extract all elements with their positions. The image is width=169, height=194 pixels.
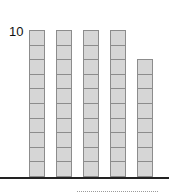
rod-4: [110, 30, 126, 177]
unit-cube: [30, 119, 44, 134]
unit-cube: [138, 104, 152, 119]
unit-cube: [111, 75, 125, 90]
unit-cube: [57, 162, 71, 176]
unit-cube: [30, 89, 44, 104]
unit-cube: [30, 60, 44, 75]
unit-cube: [111, 162, 125, 176]
unit-cube: [138, 148, 152, 163]
unit-cube: [84, 31, 98, 46]
unit-cube: [111, 148, 125, 163]
unit-cube: [57, 104, 71, 119]
unit-cube: [30, 31, 44, 46]
rod-3: [83, 30, 99, 177]
unit-cube: [84, 148, 98, 163]
unit-cube: [111, 89, 125, 104]
unit-cube: [84, 75, 98, 90]
unit-cube: [84, 162, 98, 176]
unit-cube: [84, 60, 98, 75]
unit-cube: [57, 31, 71, 46]
unit-cube: [57, 75, 71, 90]
unit-cube: [138, 133, 152, 148]
ten-label: 10: [9, 25, 23, 38]
unit-cube: [30, 75, 44, 90]
unit-cube: [138, 89, 152, 104]
unit-cube: [111, 46, 125, 61]
unit-cube: [138, 162, 152, 176]
unit-cube: [57, 89, 71, 104]
unit-cube: [30, 162, 44, 176]
baseline: [0, 177, 169, 179]
rod-1: [29, 30, 45, 177]
unit-cube: [84, 89, 98, 104]
unit-cube: [57, 148, 71, 163]
unit-cube: [57, 133, 71, 148]
unit-cube: [30, 46, 44, 61]
unit-cube: [111, 104, 125, 119]
unit-cube: [57, 119, 71, 134]
unit-cube: [138, 119, 152, 134]
rod-2: [56, 30, 72, 177]
unit-cube: [111, 31, 125, 46]
unit-cube: [138, 75, 152, 90]
unit-cube: [30, 133, 44, 148]
unit-cube: [84, 46, 98, 61]
answer-line[interactable]: [77, 191, 158, 192]
rod-5: [137, 59, 153, 177]
unit-cube: [84, 133, 98, 148]
unit-cube: [30, 104, 44, 119]
unit-cube: [57, 46, 71, 61]
unit-cube: [84, 104, 98, 119]
unit-cube: [57, 60, 71, 75]
unit-cube: [111, 133, 125, 148]
unit-cube: [111, 60, 125, 75]
unit-cube: [111, 119, 125, 134]
unit-cube: [84, 119, 98, 134]
unit-cube: [30, 148, 44, 163]
unit-cube: [138, 60, 152, 75]
